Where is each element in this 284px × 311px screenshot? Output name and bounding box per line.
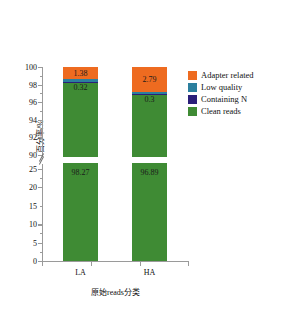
stacked-bar-chart: 百分率/% 100 98 96 94 92 90 25 20 xyxy=(0,0,284,311)
y-tick-10 xyxy=(38,224,42,225)
y-tick-minor-91 xyxy=(40,146,42,147)
bar-HA-label-adapter-related: 2.79 xyxy=(132,75,167,84)
y-tick-minor-2 xyxy=(40,252,42,253)
y-tick-92 xyxy=(38,137,42,138)
bar-HA-segment-clean-reads-lower[interactable] xyxy=(132,163,167,261)
y-tick-minor-95 xyxy=(40,111,42,112)
legend-swatch-containing-n xyxy=(188,95,197,104)
y-tick-minor-97 xyxy=(40,93,42,94)
y-tick-label-96: 96 xyxy=(29,98,37,107)
bar-LA-label-adapter-related: 1.38 xyxy=(63,69,98,78)
y-tick-label-25: 25 xyxy=(29,165,37,174)
bar-HA[interactable]: 2.79 0.3 96.89 HA xyxy=(132,67,167,262)
legend-item-adapter-related[interactable]: Adapter related xyxy=(188,70,254,81)
x-tick-1 xyxy=(91,262,92,266)
y-tick-label-94: 94 xyxy=(29,115,37,124)
y-tick-5 xyxy=(38,243,42,244)
legend-swatch-clean-reads xyxy=(188,107,197,116)
y-tick-minor-7 xyxy=(40,233,42,234)
y-tick-90 xyxy=(38,155,42,156)
y-tick-98 xyxy=(38,85,42,86)
legend-swatch-adapter-related xyxy=(188,71,197,80)
y-tick-label-90: 90 xyxy=(29,151,37,160)
axis-break-gap xyxy=(41,157,44,164)
legend: Adapter related Low quality Containing N… xyxy=(188,70,254,117)
legend-item-containing-n[interactable]: Containing N xyxy=(188,94,254,105)
legend-label-adapter-related: Adapter related xyxy=(201,70,254,81)
y-tick-label-15: 15 xyxy=(29,201,37,210)
legend-label-clean-reads: Clean reads xyxy=(201,106,241,117)
y-tick-94 xyxy=(38,120,42,121)
y-tick-label-92: 92 xyxy=(29,133,37,142)
y-tick-label-98: 98 xyxy=(29,80,37,89)
bar-LA-segment-clean-reads-upper[interactable] xyxy=(63,83,98,157)
bar-HA-segment-clean-reads-upper[interactable] xyxy=(132,95,167,157)
x-tick-2 xyxy=(140,262,141,266)
y-tick-20 xyxy=(38,187,42,188)
y-tick-minor-93 xyxy=(40,129,42,130)
y-tick-label-0: 0 xyxy=(33,257,37,266)
y-tick-label-5: 5 xyxy=(33,238,37,247)
bar-LA-label-clean-reads: 98.27 xyxy=(63,168,98,177)
x-tick-0 xyxy=(42,262,43,266)
x-tick-label-HA: HA xyxy=(127,268,173,277)
x-axis-title: 原始reads分类 xyxy=(42,286,189,297)
legend-swatch-low-quality xyxy=(188,83,197,92)
x-tick-3 xyxy=(188,262,189,266)
y-tick-label-10: 10 xyxy=(29,220,37,229)
x-tick-label-LA: LA xyxy=(58,268,104,277)
y-tick-minor-99 xyxy=(40,76,42,77)
y-tick-label-100: 100 xyxy=(25,63,37,72)
y-tick-label-20: 20 xyxy=(29,183,37,192)
y-axis-line xyxy=(42,67,43,262)
legend-label-low-quality: Low quality xyxy=(201,82,242,93)
y-tick-25 xyxy=(38,169,42,170)
y-tick-100 xyxy=(38,67,42,68)
legend-item-clean-reads[interactable]: Clean reads xyxy=(188,106,254,117)
legend-label-containing-n: Containing N xyxy=(201,94,247,105)
bar-LA[interactable]: 1.38 0.32 98.27 LA xyxy=(63,67,98,262)
plot-area: 100 98 96 94 92 90 25 20 15 10 5 xyxy=(42,67,189,262)
y-tick-96 xyxy=(38,102,42,103)
legend-item-low-quality[interactable]: Low quality xyxy=(188,82,254,93)
bar-HA-label-low-quality: 0.3 xyxy=(132,95,167,104)
bar-LA-segment-clean-reads-lower[interactable] xyxy=(63,163,98,261)
bar-LA-label-low-quality: 0.32 xyxy=(63,83,98,92)
y-tick-minor-17 xyxy=(40,206,42,207)
bar-HA-label-clean-reads: 96.89 xyxy=(132,168,167,177)
y-tick-minor-22 xyxy=(40,178,42,179)
